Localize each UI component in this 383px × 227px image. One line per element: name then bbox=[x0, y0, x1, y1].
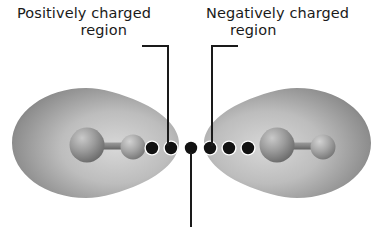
charge-dot bbox=[242, 142, 254, 154]
charge-dot bbox=[146, 142, 158, 154]
label-negatively-charged-region: Negatively charged region bbox=[206, 5, 349, 39]
label-negative-line1: Negatively charged bbox=[206, 5, 349, 21]
label-positively-charged-region: Positively charged region bbox=[17, 5, 151, 39]
molecular-interaction-figure: Positively charged region Negatively cha… bbox=[0, 0, 383, 227]
atom-large-left bbox=[70, 128, 105, 163]
atom-small-right bbox=[311, 135, 336, 160]
label-positive-line2: region bbox=[17, 22, 151, 39]
charge-dot bbox=[204, 142, 216, 154]
label-negative-line2: region bbox=[206, 22, 349, 39]
atom-small-left bbox=[121, 135, 146, 160]
charge-dot bbox=[165, 142, 177, 154]
label-positive-line1: Positively charged bbox=[17, 5, 151, 21]
atom-large-right bbox=[260, 128, 295, 163]
charge-dot bbox=[223, 142, 235, 154]
